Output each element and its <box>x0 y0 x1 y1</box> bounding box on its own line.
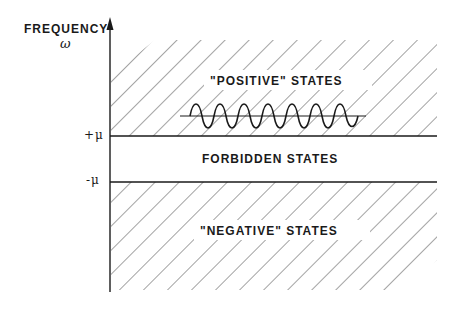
wave-packet <box>178 103 368 129</box>
forbidden-states-label: FORBIDDEN STATES <box>202 152 338 166</box>
axis-symbol: ω <box>60 36 72 51</box>
tick-minus-mu: -μ <box>86 173 100 187</box>
tick-plus-mu: +μ <box>84 128 104 142</box>
negative-states-label: "NEGATIVE" STATES <box>200 224 338 238</box>
positive-states-label: "POSITIVE" STATES <box>210 74 343 88</box>
axis-title: FREQUENCY <box>24 22 108 36</box>
